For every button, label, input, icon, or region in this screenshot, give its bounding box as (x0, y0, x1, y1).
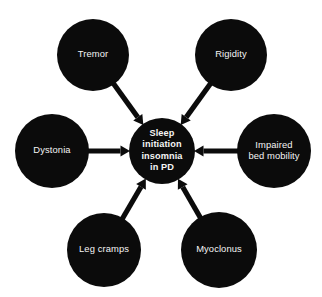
node-layer: TremorRigidityDystoniaImpairedbed mobili… (15, 19, 311, 288)
connector-arrow-tremor (113, 83, 143, 125)
node-rigidity[interactable]: Rigidity (195, 19, 267, 91)
connector-arrow-rigidity (181, 83, 211, 125)
connector-arrow-dystonia (88, 145, 130, 156)
node-label: Dystonia (33, 144, 71, 155)
connector-arrow-impaired-bed-mobility (194, 145, 238, 156)
node-tremor[interactable]: Tremor (57, 19, 129, 91)
node-label: Rigidity (215, 48, 247, 59)
node-myoclonus[interactable]: Myoclonus (181, 212, 257, 288)
connector-arrow-myoclonus (178, 179, 201, 218)
node-sleep-initiation-insomnia-in-pd[interactable]: Sleepinitiationinsomniain PD (129, 118, 195, 184)
node-impaired-bed-mobility[interactable]: Impairedbed mobility (237, 114, 311, 188)
node-label: Leg cramps (79, 243, 129, 254)
connector-arrow-leg-cramps (122, 179, 146, 219)
hub-and-spoke-diagram: TremorRigidityDystoniaImpairedbed mobili… (0, 0, 322, 297)
node-leg-cramps[interactable]: Leg cramps (67, 213, 141, 287)
node-label: Myoclonus (196, 243, 242, 254)
arrow-head-icon (194, 145, 204, 156)
diagram-canvas: TremorRigidityDystoniaImpairedbed mobili… (0, 0, 322, 297)
arrow-head-icon (121, 145, 131, 156)
node-label: Impairedbed mobility (248, 139, 299, 161)
node-label: Tremor (78, 48, 108, 59)
node-dystonia[interactable]: Dystonia (15, 114, 89, 188)
